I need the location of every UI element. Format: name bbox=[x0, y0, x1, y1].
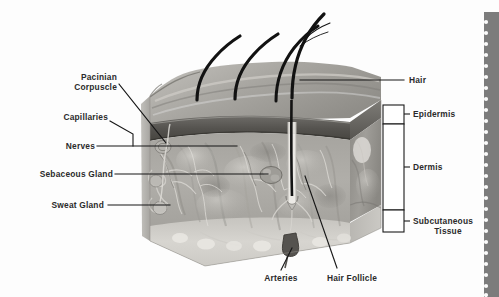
label-pacinian-corpuscle-line2: Corpuscle bbox=[74, 82, 117, 92]
sebaceous-gland-shape bbox=[150, 175, 163, 187]
label-subcutaneous-line1: Subcutaneous bbox=[413, 216, 473, 226]
sebaceous-gland-main bbox=[260, 167, 282, 184]
label-epidermis: Epidermis bbox=[413, 109, 455, 119]
bracket-subcutaneous bbox=[383, 210, 404, 232]
label-subcutaneous-line2: Tissue bbox=[434, 226, 462, 236]
pacinian-corpuscle-shape bbox=[155, 141, 171, 154]
label-arteries: Arteries bbox=[264, 273, 297, 283]
sweat-gland-shape bbox=[153, 202, 167, 215]
label-hair-follicle: Hair Follicle bbox=[327, 273, 377, 283]
label-nerves: Nerves bbox=[66, 141, 95, 151]
bracket-epidermis bbox=[383, 105, 404, 124]
label-capillaries: Capillaries bbox=[63, 112, 108, 122]
label-sebaceous-gland: Sebaceous Gland bbox=[40, 169, 113, 179]
bracket-dermis bbox=[383, 124, 404, 210]
label-pacinian-corpuscle-line1: Pacinian bbox=[81, 72, 117, 82]
page-binding-strip bbox=[484, 12, 499, 297]
diagram-canvas: Pacinian Corpuscle Capillaries Nerves Se… bbox=[0, 0, 499, 297]
skin-anatomy-figure: Pacinian Corpuscle Capillaries Nerves Se… bbox=[0, 0, 499, 297]
label-sweat-gland: Sweat Gland bbox=[52, 200, 104, 210]
label-dermis: Dermis bbox=[413, 162, 443, 172]
label-hair: Hair bbox=[409, 75, 427, 85]
